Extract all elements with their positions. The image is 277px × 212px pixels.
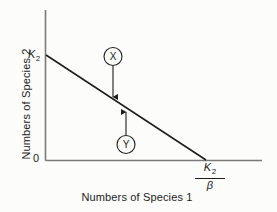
annotation-x-label: X: [104, 51, 122, 62]
annotation-y-label: Y: [117, 139, 135, 150]
plot-svg: [0, 0, 277, 212]
x-axis-tick-k2-over-beta: K2 β: [195, 162, 225, 191]
fraction-numerator-subscript: 2: [212, 167, 216, 176]
figure-container: K2 0 K2 β X Y Numbers of Species 2 Numbe…: [0, 0, 277, 212]
y-tick-k2-subscript: 2: [36, 54, 40, 63]
y-axis-tick-zero: 0: [33, 152, 39, 164]
fraction-numerator-base: K: [204, 161, 211, 173]
fraction-numerator: K2: [195, 162, 225, 179]
x-axis-title: Numbers of Species 1: [57, 191, 217, 203]
fraction-denominator: β: [195, 179, 225, 192]
y-axis-title: Numbers of Species 2: [20, 30, 32, 178]
